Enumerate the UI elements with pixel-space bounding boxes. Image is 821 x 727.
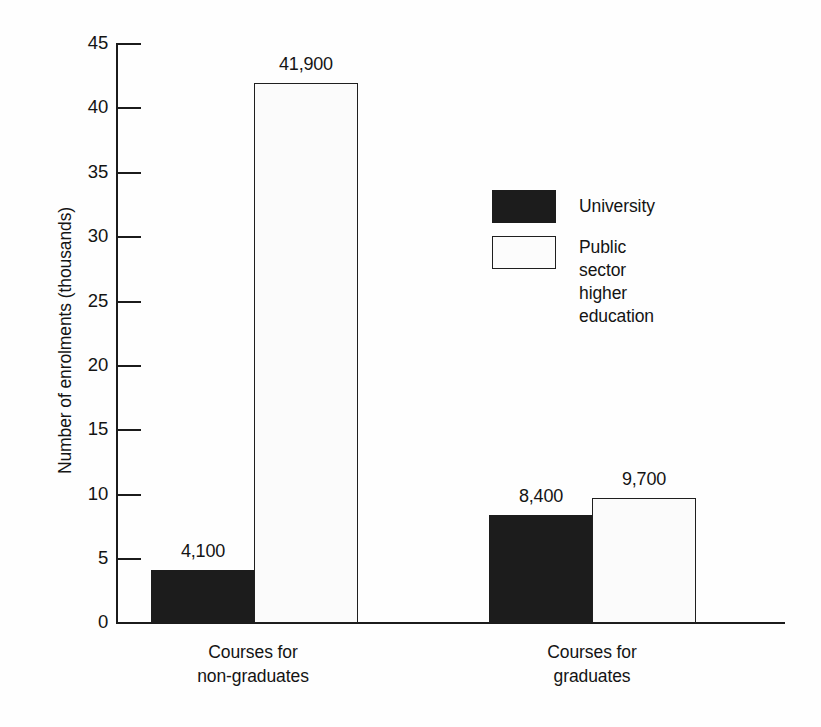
bar-graduates-university: [489, 515, 593, 623]
plot-area: 4,100 41,900 8,400 9,700: [0, 0, 821, 727]
legend-label-university: University: [579, 190, 655, 218]
bar-non-graduates-university: [151, 570, 255, 623]
bar-value-graduates-university: 8,400: [481, 486, 601, 507]
x-axis-label-line2: graduates: [442, 664, 742, 688]
legend-label-public-sector: Public sector higher education: [579, 236, 654, 328]
legend-item-university: University: [492, 190, 655, 223]
bar-graduates-public-sector: [592, 498, 696, 623]
x-axis-label-line1: Courses for: [442, 640, 742, 664]
x-axis-label-line2: non-graduates: [103, 664, 403, 688]
x-axis-label-line1: Courses for: [103, 640, 403, 664]
bar-value-graduates-public-sector: 9,700: [584, 469, 704, 490]
bar-value-non-graduates-public-sector: 41,900: [246, 54, 366, 75]
x-axis-label-non-graduates: Courses for non-graduates: [103, 640, 403, 688]
legend-item-public-sector: Public sector higher education: [492, 236, 654, 328]
legend-swatch-university: [492, 190, 556, 223]
bar-value-non-graduates-university: 4,100: [143, 541, 263, 562]
legend-swatch-public-sector: [492, 236, 556, 269]
bar-non-graduates-public-sector: [254, 83, 358, 623]
x-axis-label-graduates: Courses for graduates: [442, 640, 742, 688]
bar-chart: Number of enrolments (thousands) 45 40 3…: [0, 0, 821, 727]
